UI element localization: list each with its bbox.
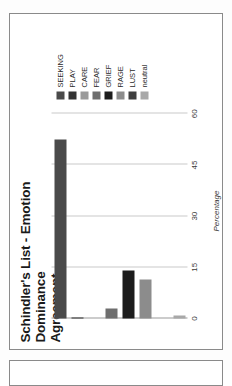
legend-item-seeking[interactable]: SEEKING [55,23,64,99]
tick-label-60: 60 [189,109,198,118]
bar-fear [105,308,117,318]
tick-label-15: 15 [189,262,198,271]
bar-neutral [173,315,185,318]
chart-title-line-1: Schindler's List - Emotion Dominance [17,112,47,342]
bar-rage [139,279,151,318]
legend-label: PLAY [67,68,76,87]
legend-item-rage[interactable]: RAGE [115,23,124,99]
bar-play [71,317,83,318]
legend-item-fear[interactable]: FEAR [91,23,100,99]
chart-figure: Schindler's List - Emotion Dominance Agr… [11,15,221,348]
bar-grief [122,270,134,318]
bar-series [51,103,187,318]
x-axis-title: Percentage [211,103,220,318]
legend-label: GRIEF [103,64,112,87]
legend-swatch-icon [80,91,88,99]
legend-item-neutral[interactable]: neutral [139,23,148,99]
legend-label: neutral [139,64,148,87]
legend-item-grief[interactable]: GRIEF [103,23,112,99]
x-axis-tick-labels: 015304560 [189,103,205,318]
legend-swatch-icon [56,91,64,99]
legend-label: LUST [127,68,136,87]
chart-legend: SEEKINGPLAYCAREFEARGRIEFRAGELUSTneutral [55,23,148,99]
plot-area [51,103,187,318]
legend-label: CARE [79,66,88,87]
legend-item-play[interactable]: PLAY [67,23,76,99]
bar-seeking [54,139,66,318]
legend-item-lust[interactable]: LUST [127,23,136,99]
legend-swatch-icon [128,91,136,99]
legend-swatch-icon [68,91,76,99]
tick-label-0: 0 [189,316,198,320]
legend-swatch-icon [140,91,148,99]
legend-item-care[interactable]: CARE [79,23,88,99]
rotated-figure-stage: Schindler's List - Emotion Dominance Agr… [11,15,221,348]
legend-label: RAGE [115,66,124,87]
tick-label-45: 45 [189,160,198,169]
chart-page-panel: Schindler's List - Emotion Dominance Agr… [9,13,223,350]
legend-swatch-icon [104,91,112,99]
next-page-panel [9,360,223,386]
legend-swatch-icon [92,91,100,99]
legend-label: SEEKING [55,54,64,87]
legend-swatch-icon [116,91,124,99]
tick-label-30: 30 [189,211,198,220]
legend-label: FEAR [91,67,100,87]
